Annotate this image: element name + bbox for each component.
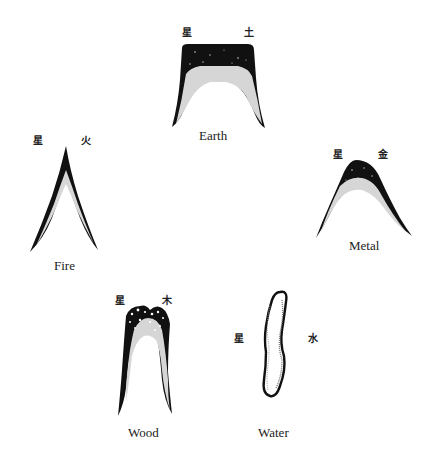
water-label: Water (258, 425, 289, 441)
water-form-icon (0, 0, 436, 465)
five-elements-diagram: { "diagram": { "type": "five-element mou… (0, 0, 436, 465)
water-figure: 星 水 Water (0, 0, 436, 465)
